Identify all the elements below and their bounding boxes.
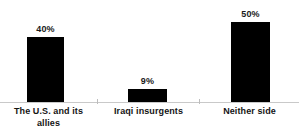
x-axis-label-line-2-0: Neither side [200,105,299,117]
bar-neither-side [231,22,270,103]
bar-chart: 40% 9% 50% The U.S. and its allies Iraqi… [0,0,299,137]
plot-area: 40% 9% 50% [0,0,299,103]
x-axis-label-line-0-0: The U.S. and its [0,105,97,117]
x-axis-label-line-1-0: Iraqi insurgents [98,105,199,117]
bar-group-0: 40% [27,0,64,103]
x-axis-label-the-us-and-its-allies: The U.S. and its allies [0,105,97,129]
bar-iraqi-insurgents [128,89,167,103]
bar-value-label-0: 40% [27,24,64,34]
bar-value-label-1: 9% [128,76,167,86]
x-axis-label-iraqi-insurgents: Iraqi insurgents [98,105,199,117]
bar-the-us-and-its-allies [27,37,64,103]
bar-group-2: 50% [231,0,270,103]
x-axis-line [0,102,299,103]
bar-group-1: 9% [128,0,167,103]
x-axis-category-labels: The U.S. and its allies Iraqi insurgents… [0,105,299,137]
x-axis-tick-1 [199,99,200,104]
x-axis-label-line-0-1: allies [0,117,97,129]
bar-value-label-2: 50% [231,9,270,19]
x-axis-tick-0 [97,99,98,104]
x-axis-label-neither-side: Neither side [200,105,299,117]
